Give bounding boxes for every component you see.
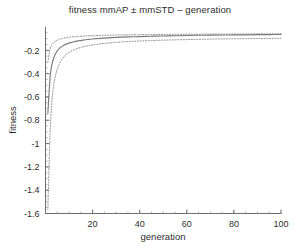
series-line-0 xyxy=(48,34,281,113)
x-tick-label: 40 xyxy=(135,219,145,229)
x-axis-title: generation xyxy=(141,231,186,242)
series-line-2 xyxy=(48,38,281,210)
x-axis-minor-ticks xyxy=(46,212,282,214)
y-tick-label: -1.2 xyxy=(24,162,40,172)
y-tick-label: -0.8 xyxy=(24,115,40,125)
y-tick-label: -1 xyxy=(31,139,39,149)
y-tick-label: -0.6 xyxy=(24,92,40,102)
x-tick-label: 20 xyxy=(88,219,98,229)
data-series-group xyxy=(48,34,281,210)
y-axis-title: fitness xyxy=(7,106,18,134)
y-tick-label: -1.6 xyxy=(24,209,40,219)
x-axis-tick-labels: 20406080100 xyxy=(88,219,289,229)
x-tick-label: 60 xyxy=(182,219,192,229)
plot-area: -0.2-0.4-0.6-0.8-1-1.2-1.4-1.6 204060801… xyxy=(0,0,300,248)
y-axis-tick-labels: -0.2-0.4-0.6-0.8-1-1.2-1.4-1.6 xyxy=(24,46,40,219)
series-line-1 xyxy=(48,34,281,62)
y-tick-label: -0.4 xyxy=(24,69,40,79)
x-tick-label: 100 xyxy=(273,219,288,229)
y-tick-label: -1.4 xyxy=(24,185,40,195)
figure-canvas: fitness mmAP ± mmSTD – generation -0.2-0… xyxy=(0,0,300,248)
y-tick-label: -0.2 xyxy=(24,46,40,56)
x-tick-label: 80 xyxy=(229,219,239,229)
